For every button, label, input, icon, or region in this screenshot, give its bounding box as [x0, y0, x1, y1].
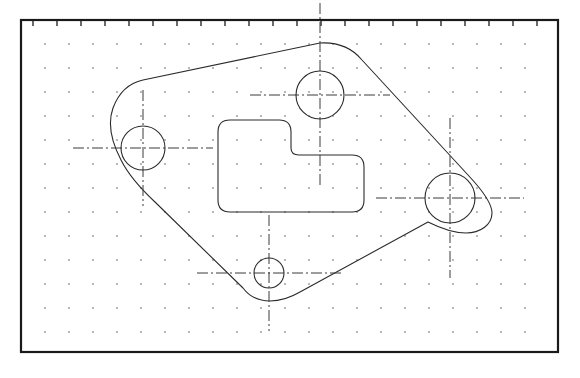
- grid-dot: [212, 187, 214, 189]
- grid-dot: [308, 235, 310, 237]
- grid-dot: [404, 211, 406, 213]
- grid-dot: [476, 211, 478, 213]
- grid-dot: [140, 139, 142, 141]
- grid-dot: [524, 67, 526, 69]
- grid-dot: [140, 283, 142, 285]
- grid-dot: [404, 67, 406, 69]
- grid-dot: [380, 115, 382, 117]
- grid-dot: [92, 163, 94, 165]
- grid-dot: [380, 331, 382, 333]
- grid-dot: [356, 43, 358, 45]
- grid-dot: [308, 187, 310, 189]
- grid-dot: [476, 187, 478, 189]
- grid-dot: [44, 259, 46, 261]
- grid-dot: [68, 211, 70, 213]
- grid-dot: [116, 235, 118, 237]
- grid-dot: [476, 67, 478, 69]
- grid-dot: [44, 307, 46, 309]
- grid-dot: [164, 163, 166, 165]
- grid-dot: [140, 259, 142, 261]
- grid-dot: [452, 307, 454, 309]
- grid-dot: [308, 67, 310, 69]
- grid-dot: [380, 283, 382, 285]
- grid-dot: [92, 67, 94, 69]
- grid-dot: [308, 163, 310, 165]
- grid-dot: [500, 115, 502, 117]
- grid-dot: [428, 235, 430, 237]
- grid-dot: [476, 283, 478, 285]
- grid-dot: [188, 139, 190, 141]
- grid-dot: [260, 115, 262, 117]
- cad-drawing-view: CAD VIEW: [0, 0, 580, 378]
- grid-dot: [92, 139, 94, 141]
- grid-dot: [284, 115, 286, 117]
- grid-dot: [428, 307, 430, 309]
- grid-dot: [452, 163, 454, 165]
- grid-dot: [404, 43, 406, 45]
- grid-dot: [404, 163, 406, 165]
- grid-dot: [524, 115, 526, 117]
- grid-dot: [356, 67, 358, 69]
- grid-dot: [236, 43, 238, 45]
- grid-dot: [332, 139, 334, 141]
- grid-dot: [68, 187, 70, 189]
- grid-dot: [260, 187, 262, 189]
- grid-dot: [500, 283, 502, 285]
- grid-dot: [428, 259, 430, 261]
- grid-dot: [476, 43, 478, 45]
- grid-dot: [260, 43, 262, 45]
- grid-dot: [164, 307, 166, 309]
- grid-dot: [44, 163, 46, 165]
- drawing-canvas[interactable]: [0, 0, 580, 378]
- grid-dot: [356, 139, 358, 141]
- grid-dot: [524, 211, 526, 213]
- grid-dot: [404, 91, 406, 93]
- grid-dot: [284, 235, 286, 237]
- grid-dot: [164, 235, 166, 237]
- grid-dot: [452, 283, 454, 285]
- grid-dot: [44, 115, 46, 117]
- grid-dot: [116, 91, 118, 93]
- grid-dot: [308, 91, 310, 93]
- grid-dot: [188, 187, 190, 189]
- grid-dot: [284, 163, 286, 165]
- grid-dot: [236, 115, 238, 117]
- grid-dot: [476, 307, 478, 309]
- grid-dot: [188, 259, 190, 261]
- grid-dot: [452, 235, 454, 237]
- grid-dot: [188, 163, 190, 165]
- grid-dot: [284, 43, 286, 45]
- grid-dot: [188, 115, 190, 117]
- grid-dot: [404, 115, 406, 117]
- grid-dot: [68, 259, 70, 261]
- grid-dot: [332, 259, 334, 261]
- grid-dot: [92, 259, 94, 261]
- grid-dot: [260, 91, 262, 93]
- grid-dot: [188, 67, 190, 69]
- grid-dot: [68, 307, 70, 309]
- grid-dot: [116, 307, 118, 309]
- grid-dot: [380, 187, 382, 189]
- grid-dot: [356, 235, 358, 237]
- grid-dot: [236, 139, 238, 141]
- grid-dot: [500, 67, 502, 69]
- grid-dot: [500, 211, 502, 213]
- grid-dot: [524, 139, 526, 141]
- grid-dot: [44, 91, 46, 93]
- grid-dot: [476, 259, 478, 261]
- grid-dot: [476, 331, 478, 333]
- grid-dot: [308, 139, 310, 141]
- grid-dot: [68, 43, 70, 45]
- grid-dot: [260, 163, 262, 165]
- grid-dot: [140, 235, 142, 237]
- grid-dot: [428, 91, 430, 93]
- grid-dot: [524, 43, 526, 45]
- grid-dot: [452, 187, 454, 189]
- grid-dot: [116, 163, 118, 165]
- grid-dot: [140, 115, 142, 117]
- grid-dot: [380, 139, 382, 141]
- grid-dot: [44, 67, 46, 69]
- grid-dot: [500, 163, 502, 165]
- grid-dot: [452, 67, 454, 69]
- grid-dot: [356, 187, 358, 189]
